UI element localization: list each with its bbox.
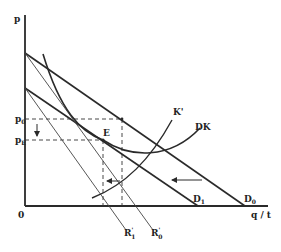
p0-label: p0 bbox=[15, 114, 25, 125]
E-label: E bbox=[103, 128, 110, 138]
D1-label: D1 bbox=[193, 194, 205, 205]
origin-label: 0 bbox=[18, 210, 24, 220]
economics-diagram: p 0 q / t p0 pE E K' DK D1 D0 R'1 R'0 bbox=[0, 0, 281, 252]
y-axis-label: p bbox=[14, 14, 20, 24]
D0-label: D0 bbox=[244, 194, 256, 205]
point-E bbox=[101, 138, 104, 141]
K-prime-label: K' bbox=[173, 107, 184, 117]
R1-prime-label: R'1 bbox=[124, 226, 136, 240]
R1-prime-curve bbox=[25, 88, 126, 230]
R0-prime-curve bbox=[25, 53, 153, 230]
point-p0-D0 bbox=[121, 118, 124, 121]
DK-label: DK bbox=[195, 122, 212, 132]
R0-prime-label: R'0 bbox=[151, 226, 163, 240]
DK-curve bbox=[43, 54, 200, 153]
x-axis-label: q / t bbox=[251, 210, 272, 220]
D0-curve bbox=[25, 53, 245, 206]
